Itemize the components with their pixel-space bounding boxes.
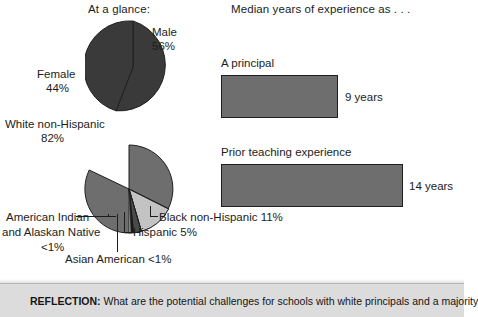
leader-line-black-vertical <box>150 206 151 216</box>
race-hispanic-label: Hispanic 5% <box>133 226 197 239</box>
reflection-text-wrap: REFLECTION: What are the potential chall… <box>30 295 478 307</box>
reflection-body: What are the potential challenges for sc… <box>101 295 478 307</box>
leader-line-hispanic-vertical <box>124 212 125 232</box>
bar-principal-value: 9 years <box>345 91 383 104</box>
gender-female-label: Female <box>37 68 75 81</box>
reflection-band: REFLECTION: What are the potential chall… <box>0 283 464 317</box>
race-amerindian-label-line1: American Indian <box>6 211 89 224</box>
bar-teaching <box>221 164 403 207</box>
bar-teaching-value: 14 years <box>409 180 453 193</box>
race-white-value: 82% <box>41 132 64 145</box>
gender-female-value: 44% <box>46 82 69 95</box>
bar-principal <box>221 75 338 118</box>
race-amerindian-label-line2: and Alaskan Native <box>2 226 100 239</box>
race-black-label: Black non-Hispanic 11% <box>159 211 283 224</box>
leader-line-amerindian-vertical <box>108 214 109 217</box>
gender-male-value: 56% <box>152 40 175 53</box>
gender-male-label: Male <box>152 26 177 39</box>
leader-line-hispanic-horizontal <box>124 232 132 233</box>
leader-line-asian-vertical <box>117 214 118 252</box>
leader-line-amerindian-horizontal <box>108 216 116 217</box>
leader-line-black-horizontal <box>150 216 158 217</box>
race-white-label: White non-Hispanic <box>5 118 105 131</box>
race-asian-label: Asian American <1% <box>65 253 171 266</box>
reflection-kicker: REFLECTION: <box>30 295 101 307</box>
right-panel-header: Median years of experience as . . . <box>231 3 410 16</box>
race-amerindian-label-line3: <1% <box>41 241 64 254</box>
left-panel-header: At a glance: <box>88 3 150 16</box>
bar-principal-label: A principal <box>221 57 274 70</box>
bar-teaching-label: Prior teaching experience <box>221 146 351 159</box>
